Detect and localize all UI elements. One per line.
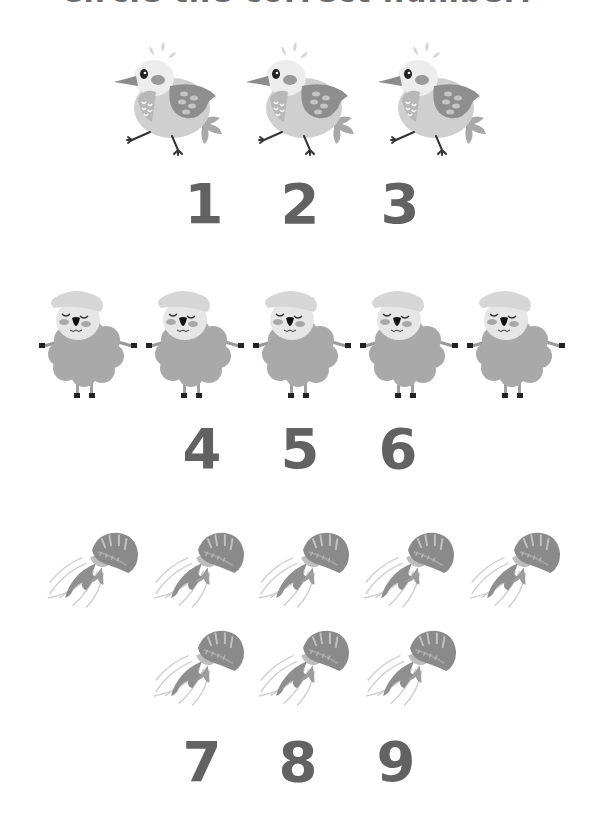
answer-option-3[interactable]: 3 — [370, 176, 430, 232]
bird-illustration — [242, 42, 360, 160]
birds-row — [0, 42, 593, 160]
jellyfish-illustration — [255, 626, 351, 714]
jellyfish-illustration — [150, 626, 246, 714]
jellyfish-illustration — [466, 528, 562, 616]
answer-option-8[interactable]: 8 — [268, 734, 328, 790]
jellyfish-illustration — [362, 626, 458, 714]
sheep-illustration — [359, 284, 459, 400]
answer-option-9[interactable]: 9 — [366, 734, 426, 790]
answer-option-2[interactable]: 2 — [270, 176, 330, 232]
jellyfish-row-2 — [0, 626, 593, 716]
sheep-illustration — [145, 284, 245, 400]
bird-illustration — [374, 42, 492, 160]
sheep-illustration — [38, 284, 138, 400]
jellyfish-illustration — [255, 528, 351, 616]
answer-option-5[interactable]: 5 — [270, 421, 330, 477]
jellyfish-illustration — [150, 528, 246, 616]
answer-option-7[interactable]: 7 — [172, 734, 232, 790]
worksheet-title: Circle the correct number: — [0, 0, 593, 9]
bird-illustration — [110, 42, 228, 160]
sheep-illustration — [252, 284, 352, 400]
answer-option-4[interactable]: 4 — [172, 421, 232, 477]
answer-option-1[interactable]: 1 — [174, 176, 234, 232]
jellyfish-illustration — [360, 528, 456, 616]
jellyfish-row-1 — [0, 528, 593, 618]
sheep-row — [0, 284, 593, 400]
jellyfish-illustration — [44, 528, 140, 616]
sheep-illustration — [466, 284, 566, 400]
answer-option-6[interactable]: 6 — [368, 421, 428, 477]
